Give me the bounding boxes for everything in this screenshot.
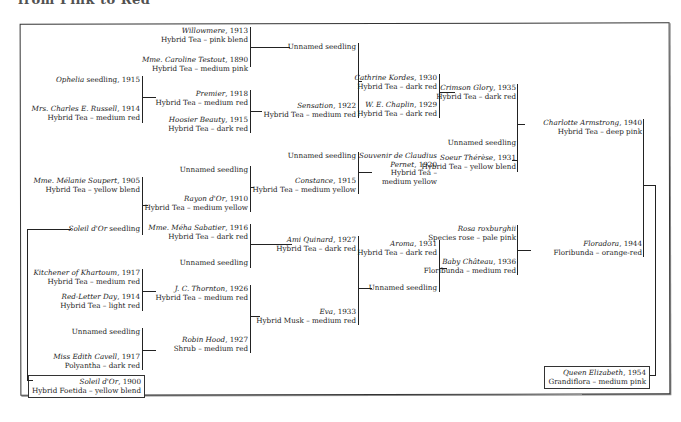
clipped-title: from Pink to Red <box>18 0 150 7</box>
node-constance: Constance, 1915Hybrid Tea – medium yello… <box>252 177 356 194</box>
connector-line <box>358 288 372 289</box>
connector-line <box>650 375 656 376</box>
connector-line <box>358 81 362 82</box>
connector-line <box>250 285 251 353</box>
connector-line <box>439 268 447 269</box>
connector-line <box>358 172 372 173</box>
node-eva: Eva, 1933Hybrid Musk – medium red <box>256 308 356 325</box>
connector-line <box>439 92 455 93</box>
connector-line <box>142 205 148 206</box>
node-mme-meha-sabatier: Mme. Méha Sabatier, 1916Hybrid Tea – dar… <box>148 224 248 241</box>
connector-line <box>142 269 143 311</box>
connector-line <box>250 244 292 245</box>
node-rosa-roxburghii: Rosa roxburghiiSpecies rose – pale pink <box>428 225 516 242</box>
node-soleil-dor-seedling: Soleil d'Or seedling <box>68 225 140 234</box>
node-willowmere: Willowmere, 1913Hybrid Tea – pink blend <box>161 27 248 44</box>
node-unnamed-seedling-1: Unnamed seedling <box>288 43 356 52</box>
node-ophelia-seedling: Ophelia seedling, 1915 <box>56 76 140 85</box>
node-unnamed-seedling-4: Unnamed seedling <box>180 166 248 175</box>
node-cathrine-kordes: Cathrine Kordes, 1930Hybrid Tea – dark r… <box>354 74 437 91</box>
node-premier: Premier, 1918Hybrid Tea – medium red <box>156 90 248 107</box>
connector-line <box>250 187 254 188</box>
connector-line <box>250 166 251 212</box>
node-unnamed-seedling-6: Unnamed seedling <box>72 328 140 337</box>
connector-line <box>358 152 359 194</box>
node-baby-chateau: Baby Château, 1936Floribunda – medium re… <box>424 258 516 275</box>
node-unnamed-seedling-3: Unnamed seedling <box>288 152 356 161</box>
node-red-letter-day: Red-Letter Day, 1914Hybrid Tea – light r… <box>60 293 140 310</box>
connector-line <box>517 250 531 251</box>
connector-line <box>643 119 644 257</box>
node-mme-caroline-testout: Mme. Caroline Testout, 1890Hybrid Tea – … <box>142 56 248 73</box>
node-miss-edith-cavell: Miss Edith Cavell, 1917Polyantha – dark … <box>53 353 140 370</box>
node-mme-melanie-soupert: Mme. Mélanie Soupert, 1905Hybrid Tea – y… <box>33 177 140 194</box>
connector-line <box>439 240 440 292</box>
node-unnamed-seedling-5: Unnamed seedling <box>180 259 248 268</box>
node-floradora: Floradora, 1944Floribunda – orange-red <box>553 240 642 257</box>
connector-line <box>517 124 525 125</box>
node-unnamed-seedling-2: Unnamed seedling <box>448 139 516 148</box>
node-robin-hood: Robin Hood, 1927Shrub – medium red <box>174 336 248 353</box>
connector-line <box>655 185 656 375</box>
node-charlotte-armstrong: Charlotte Armstrong, 1940Hybrid Tea – de… <box>543 119 642 136</box>
connector-line <box>643 185 655 186</box>
connector-line <box>27 380 33 381</box>
connector-line <box>142 97 156 98</box>
node-rayon-dor: Rayon d'Or, 1910Hybrid Tea – medium yell… <box>144 195 248 212</box>
node-sensation: Sensation, 1922Hybrid Tea – medium red <box>264 102 356 119</box>
connector-line <box>142 350 156 351</box>
node-kitchener-of-khartoum: Kitchener of Khartoum, 1917Hybrid Tea – … <box>33 269 140 286</box>
node-aroma: Aroma, 1931Hybrid Tea – dark red <box>357 240 437 257</box>
connector-line <box>142 177 143 235</box>
node-mrs-charles-russell: Mrs. Charles E. Russell, 1914Hybrid Tea … <box>32 105 140 122</box>
node-soeur-therese: Soeur Thérèse, 1931Hybrid Tea – yellow b… <box>421 154 516 171</box>
node-unnamed-seedling-7: Unnamed seedling <box>369 284 437 293</box>
connector-line <box>439 74 440 118</box>
connector-line <box>250 224 251 268</box>
connector-line <box>250 47 290 48</box>
connector-line <box>250 111 262 112</box>
node-soleil-dor-1900: Soleil d'Or, 1900Hybrid Foetida – yellow… <box>28 375 145 398</box>
connector-line <box>512 160 517 161</box>
connector-line <box>517 139 518 172</box>
node-we-chaplin: W. E. Chaplin, 1929Hybrid Tea – dark red <box>357 101 437 118</box>
node-jc-thornton: J. C. Thornton, 1926Hybrid Tea – medium … <box>156 285 248 302</box>
connector-line <box>142 328 143 370</box>
connector-line <box>27 229 28 380</box>
connector-line <box>358 236 359 325</box>
node-queen-elizabeth: Queen Elizabeth, 1954Grandiflora – mediu… <box>544 366 650 389</box>
connector-line <box>142 291 156 292</box>
connector-line <box>27 229 71 230</box>
connector-line <box>142 76 143 123</box>
node-hoosier-beauty: Hoosier Beauty, 1915Hybrid Tea – dark re… <box>168 116 248 133</box>
connector-line <box>250 316 260 317</box>
